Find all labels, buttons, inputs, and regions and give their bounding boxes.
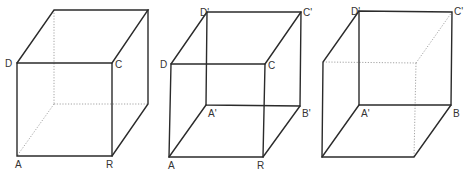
vertex-label-a: A	[168, 160, 175, 171]
front-face	[169, 64, 265, 157]
vertex-label-c1: C'	[303, 7, 312, 18]
edge-aa1	[169, 105, 206, 157]
edge-dd1	[171, 12, 207, 64]
hidden-edge	[414, 63, 416, 157]
vertex-label-a: A	[15, 159, 22, 170]
vertex-label-b: B	[453, 108, 460, 119]
vertex-label-c1: C'	[454, 6, 463, 17]
back-face	[206, 12, 301, 106]
vertex-label-b: R	[106, 159, 113, 170]
vertex-label-c: C	[115, 59, 122, 70]
cube-diagrams: D C A R D C A R D' C' A' B' D' C' A' B	[0, 0, 465, 175]
vertex-label-d: D	[5, 58, 12, 69]
right-face-edges	[112, 10, 148, 156]
hidden-edge	[416, 12, 452, 63]
vertex-label-b: R	[257, 160, 264, 171]
cube-1: D C A R	[5, 10, 148, 170]
vertex-label-d: D	[160, 59, 167, 70]
vertex-label-c: C	[268, 60, 275, 71]
cube-3: D' C' A' B	[322, 6, 463, 157]
front-face	[17, 63, 112, 156]
back-face	[359, 11, 452, 105]
vertex-label-a1: A'	[361, 108, 370, 119]
vertex-label-a1: A'	[208, 108, 217, 119]
edge-a1	[322, 105, 359, 157]
edge-cc1	[265, 12, 301, 64]
vertex-label-d1: D'	[200, 7, 209, 18]
vertex-label-b1: B'	[302, 108, 311, 119]
hidden-edge	[323, 62, 416, 63]
edge-bb1	[263, 106, 300, 157]
cube-2: D C A R D' C' A' B'	[160, 7, 312, 171]
vertex-label-d1: D'	[351, 6, 360, 17]
outline-edges	[322, 11, 451, 157]
top-face-edges	[17, 10, 148, 63]
hidden-edge	[17, 104, 54, 156]
